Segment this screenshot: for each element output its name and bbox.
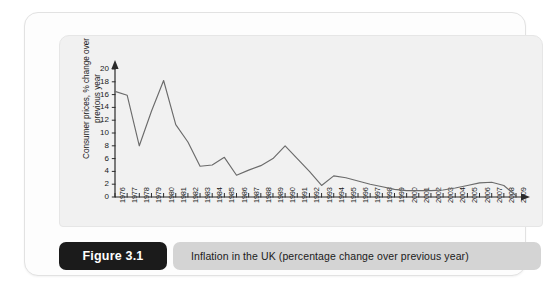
figure-caption-text: Inflation in the UK (percentage change o… (173, 242, 541, 270)
axes-group (111, 60, 530, 201)
x-axis-arrowhead (521, 193, 530, 200)
screenshot-root: Consumer prices, % change over previous … (0, 0, 547, 293)
inflation-data-line (115, 81, 516, 196)
chart-panel: Consumer prices, % change over previous … (59, 35, 543, 227)
figure-card: Consumer prices, % change over previous … (24, 12, 526, 276)
figure-number-badge: Figure 3.1 (59, 242, 167, 270)
y-axis-arrowhead (111, 60, 118, 69)
figure-caption-row: Figure 3.1 Inflation in the UK (percenta… (59, 242, 541, 270)
line-chart-plot (60, 36, 542, 226)
